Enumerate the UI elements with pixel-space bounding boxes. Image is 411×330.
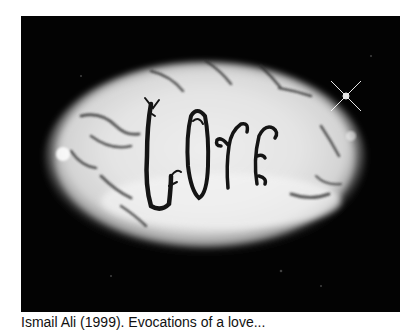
- light-flare: [331, 81, 361, 111]
- figure-caption: Ismail Ali (1999). Evocations of a love.…: [21, 314, 265, 330]
- light-spot: [56, 147, 70, 161]
- photo: [21, 16, 400, 312]
- photo-frame: [21, 16, 400, 312]
